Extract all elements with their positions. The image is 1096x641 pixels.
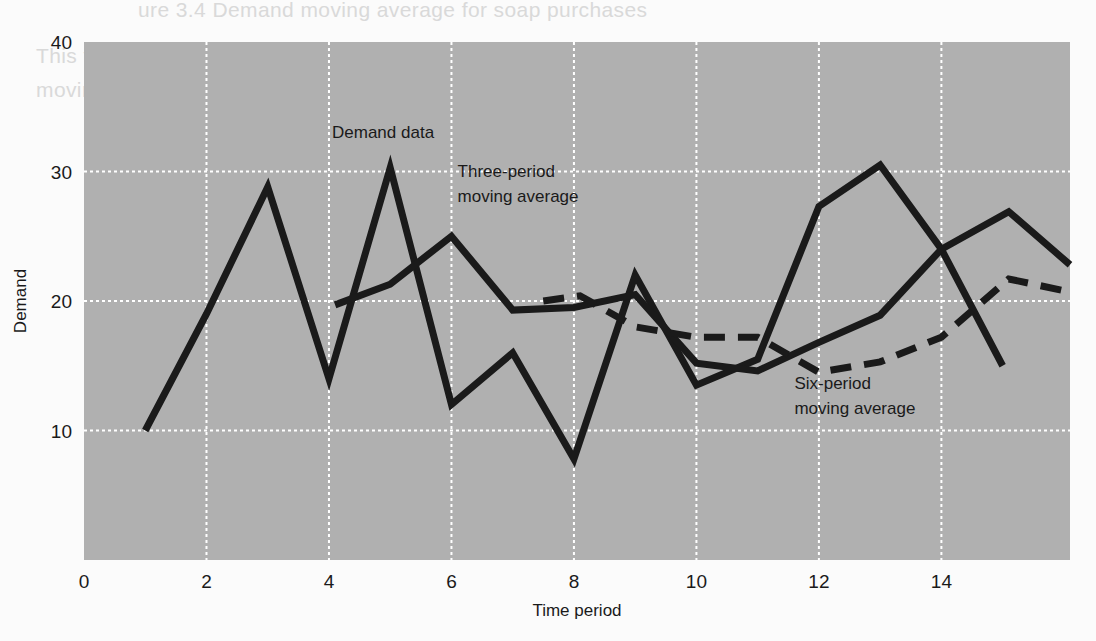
x-tick-label-4: 4 [324,571,335,592]
x-tick-label-2: 2 [201,571,212,592]
x-tick-label-12: 12 [808,571,829,592]
y-tick-label-30: 30 [51,162,72,183]
six-period-label-line-2: moving average [794,399,915,418]
demand-data-label: Demand data [332,123,435,142]
line-chart: 02468101214 10203040 Demand dataThree-pe… [0,0,1096,641]
y-tick-label-10: 10 [51,421,72,442]
figure-container: ure 3.4 Demand moving average for soap p… [0,0,1096,641]
x-tick-label-6: 6 [446,571,457,592]
three-period-label-line-1: Three-period [458,162,555,181]
chart-plot-wrapper: 02468101214 10203040 Demand dataThree-pe… [0,0,1096,641]
demand-data-label-line-1: Demand data [332,123,435,142]
x-tick-label-8: 8 [569,571,580,592]
x-tick-label-0: 0 [79,571,90,592]
y-axis-title: Demand [11,269,30,333]
y-tick-labels: 10203040 [51,32,72,442]
x-tick-label-10: 10 [686,571,707,592]
three-period-label-line-2: moving average [458,187,579,206]
six-period-label-line-1: Six-period [794,374,871,393]
y-tick-label-20: 20 [51,291,72,312]
x-tick-label-14: 14 [931,571,953,592]
x-axis-title: Time period [532,601,621,620]
x-tick-labels: 02468101214 [79,571,953,592]
y-tick-label-40: 40 [51,32,72,53]
